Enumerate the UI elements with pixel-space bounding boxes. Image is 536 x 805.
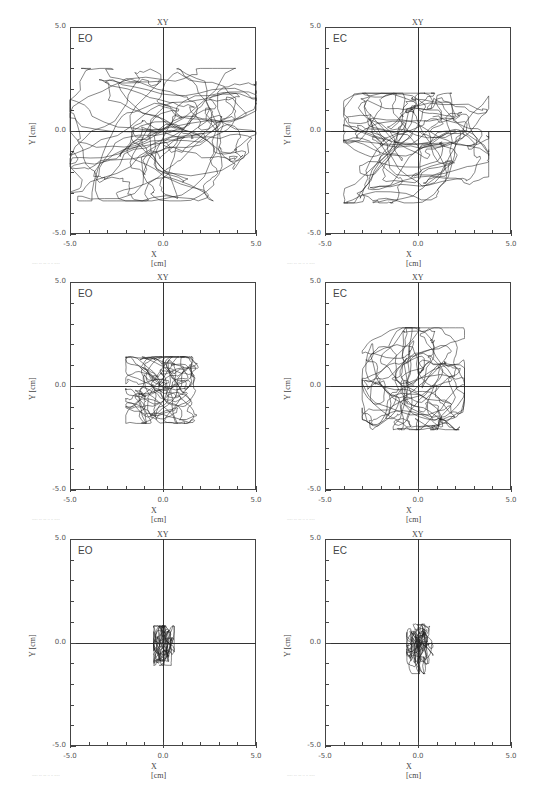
y-tick-label: 5.0: [44, 277, 66, 285]
y-tick: [325, 234, 331, 235]
x-tick-label: 0.0: [408, 752, 428, 760]
sway-trace: [325, 539, 511, 746]
y-axis-label: Y [cm]: [28, 634, 37, 657]
sway-trace: [70, 539, 256, 746]
x-axis-label: X [cm]: [151, 762, 166, 780]
x-axis-label: X [cm]: [406, 762, 421, 780]
x-tick: [511, 486, 512, 492]
x-tick-label: 5.0: [246, 752, 266, 760]
y-tick: [325, 746, 331, 747]
x-tick: [256, 230, 257, 236]
plot-footer-text: ····· ··· ··· ·· ·· ·····: [32, 518, 60, 522]
y-tick-label: 5.0: [299, 22, 321, 30]
plot-title: XY: [157, 530, 169, 539]
x-tick-label: 5.0: [501, 496, 521, 504]
plot-footer-text: ····· ··· ··· ·· ·· ·····: [287, 518, 315, 522]
y-tick-label: 5.0: [299, 534, 321, 542]
x-tick-label: -5.0: [60, 240, 80, 248]
x-tick-label: -5.0: [60, 496, 80, 504]
y-tick-label: -5.0: [44, 741, 66, 749]
y-tick: [325, 490, 331, 491]
y-tick-label: -5.0: [299, 229, 321, 237]
plot-title: XY: [412, 273, 424, 282]
y-axis-label: Y [cm]: [283, 377, 292, 400]
sway-trace: [325, 282, 511, 490]
x-axis-label: X [cm]: [151, 506, 166, 524]
x-tick-label: 5.0: [246, 240, 266, 248]
y-tick-label: -5.0: [44, 229, 66, 237]
x-tick-label: 5.0: [246, 496, 266, 504]
x-axis-label: X [cm]: [406, 506, 421, 524]
plot-title: XY: [157, 273, 169, 282]
y-tick-label: 5.0: [299, 277, 321, 285]
y-tick: [70, 234, 76, 235]
y-axis-label: Y [cm]: [283, 634, 292, 657]
x-tick-label: 0.0: [408, 240, 428, 248]
y-tick-label: 0.0: [44, 638, 66, 646]
x-tick: [511, 742, 512, 748]
y-axis-label: Y [cm]: [28, 377, 37, 400]
y-axis-label: Y [cm]: [283, 122, 292, 145]
plot-footer-text: ····· ··· ··· ·· ·· ·····: [287, 774, 315, 778]
plot-footer-text: ····· ··· ··· ·· ·· ·····: [32, 262, 60, 266]
x-axis-label: X [cm]: [151, 250, 166, 268]
y-tick-label: 5.0: [44, 22, 66, 30]
y-tick-label: 0.0: [44, 126, 66, 134]
y-tick: [70, 746, 76, 747]
x-tick-label: -5.0: [315, 496, 335, 504]
x-tick-label: -5.0: [60, 752, 80, 760]
x-tick: [256, 486, 257, 492]
plot-footer-text: ····· ··· ··· ·· ·· ·····: [32, 774, 60, 778]
y-tick-label: 0.0: [44, 381, 66, 389]
y-tick-label: -5.0: [44, 485, 66, 493]
sway-trace: [325, 27, 511, 234]
plot-footer-text: ····· ··· ··· ·· ·· ·····: [287, 262, 315, 266]
sway-trace: [70, 282, 256, 490]
plot-title: XY: [412, 18, 424, 27]
y-tick-label: -5.0: [299, 485, 321, 493]
x-tick-label: 0.0: [408, 496, 428, 504]
plot-title: XY: [412, 530, 424, 539]
y-tick-label: 0.0: [299, 381, 321, 389]
x-tick-label: 5.0: [501, 240, 521, 248]
sway-trace: [70, 27, 256, 234]
x-tick-label: -5.0: [315, 752, 335, 760]
x-tick-label: 0.0: [153, 752, 173, 760]
y-tick: [70, 490, 76, 491]
y-axis-label: Y [cm]: [28, 122, 37, 145]
x-axis-label: X [cm]: [406, 250, 421, 268]
x-tick-label: 0.0: [153, 496, 173, 504]
x-tick: [511, 230, 512, 236]
x-tick-label: 5.0: [501, 752, 521, 760]
y-tick-label: 5.0: [44, 534, 66, 542]
y-tick-label: -5.0: [299, 741, 321, 749]
x-tick-label: 0.0: [153, 240, 173, 248]
x-tick-label: -5.0: [315, 240, 335, 248]
x-tick: [256, 742, 257, 748]
y-tick-label: 0.0: [299, 126, 321, 134]
y-tick-label: 0.0: [299, 638, 321, 646]
plot-title: XY: [157, 18, 169, 27]
